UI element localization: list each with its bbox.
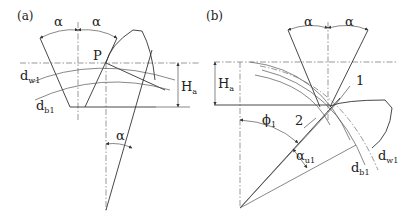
alpha-left-label: α — [54, 14, 63, 29]
panel-b-label: (b) — [206, 9, 223, 23]
leader-1 — [336, 86, 350, 104]
alpha-arc-bottom — [106, 144, 132, 149]
dw1-label-a: dw1 — [20, 68, 40, 85]
panel-a: (a) α α dw1 db1 P — [17, 9, 200, 212]
alpha-right-label-b: α — [345, 14, 354, 29]
dw1-label-b: dw1 — [378, 148, 398, 165]
db1-label-a: db1 — [36, 98, 55, 115]
line-of-action — [106, 63, 165, 90]
db1-label-b: db1 — [351, 160, 370, 177]
alpha-right-label: α — [92, 14, 101, 29]
base-circle-db1 — [35, 82, 170, 100]
pitch-point-label: P — [93, 48, 102, 63]
gear-tooth-profile — [106, 30, 155, 80]
alpha-bottom-label: α — [116, 128, 125, 143]
rack-right-flank-b — [330, 30, 368, 107]
gear-tooth-diagram: (a) α α dw1 db1 P — [0, 0, 413, 221]
rack-left-flank — [40, 38, 70, 107]
base-circle-db1-b — [262, 70, 365, 165]
point-2-label: 2 — [295, 113, 303, 128]
ha-label-a: Ha — [181, 79, 197, 96]
radius-line-2 — [240, 104, 336, 208]
gear-tooth-profile-b — [330, 100, 392, 148]
point-1-label: 1 — [356, 73, 364, 88]
outer-arc-b — [250, 62, 350, 140]
phi1-label: ϕ1 — [262, 112, 276, 129]
pitch-circle-dw1 — [30, 68, 175, 83]
alpha-u1-label: αu1 — [296, 148, 315, 165]
ha-label-b: Ha — [218, 76, 234, 93]
alpha-left-label-b: α — [304, 14, 313, 29]
alpha-arc-left — [40, 30, 78, 38]
panel-b: (b) Ha α α 1 — [206, 9, 398, 208]
alpha-arc-right — [78, 30, 117, 38]
panel-a-label: (a) — [17, 9, 34, 23]
